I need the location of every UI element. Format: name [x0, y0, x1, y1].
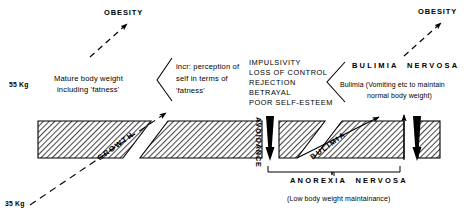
- avoidance-arrow: [266, 116, 275, 161]
- trigger-item-betrayal: BETRAYAL: [249, 88, 291, 98]
- band-terminal-right: [418, 121, 440, 158]
- obesity-left-arrow: [90, 24, 127, 57]
- trigger-item-rejection: REJECTION: [249, 78, 296, 88]
- bulimia-detail-line1: Bulimia (Vomiting etc to maintain: [340, 81, 445, 89]
- trigger-item-loss-of-control: LOSS OF CONTROL: [249, 68, 327, 78]
- lower-weight-label: 35 Kg: [5, 200, 25, 208]
- obesity-left-label: OBESITY: [104, 9, 143, 18]
- perception-line3: 'fatness': [176, 87, 205, 96]
- bulimia-detail-line2: normal body weight): [367, 92, 432, 100]
- diagram-canvas: OBESITY OBESITY 55 Kg 35 Kg Mature body …: [0, 0, 473, 222]
- perception-line2: self in terms of: [176, 75, 228, 84]
- diagram-graphics: [0, 0, 473, 222]
- upper-weight-label: 55 Kg: [9, 81, 29, 89]
- anorexia-detail-caption: (Low body weight maintainance): [287, 195, 390, 203]
- perception-line1: incr: perception of: [176, 63, 239, 72]
- bulimia-nervosa-heading: BULIMIA NERVOSA: [352, 62, 459, 71]
- band-normal-weight: [140, 121, 262, 158]
- obesity-right-label: OBESITY: [418, 8, 457, 17]
- mature-weight-line1: Mature body weight: [54, 75, 123, 84]
- trigger-item-poor-self-esteem: POOR SELF-ESTEEM: [249, 98, 333, 108]
- mature-weight-line2: including 'fatness': [57, 86, 119, 95]
- obesity-right-arrow: [404, 23, 441, 56]
- band-baseline-left: [38, 121, 151, 158]
- anorexia-nervosa-heading: ANOREXIA NERVOSA: [290, 177, 408, 186]
- avoidance-path-label: AVOIDANCE: [254, 117, 262, 168]
- perception-bracket: [157, 58, 172, 101]
- trigger-item-impulsivity: IMPULSIVITY: [249, 58, 301, 68]
